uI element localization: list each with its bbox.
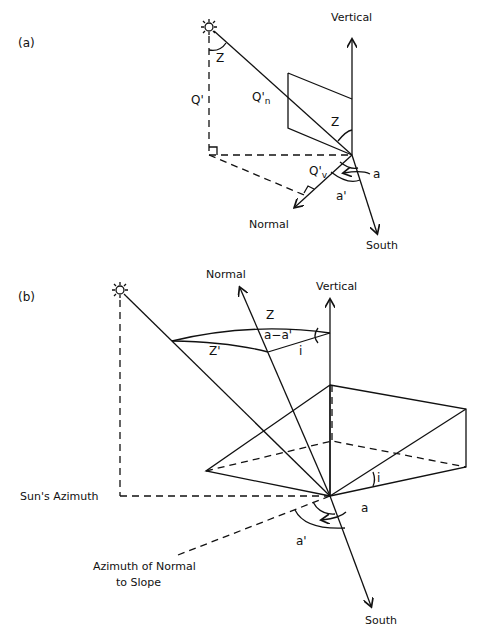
vertical-label: Vertical — [316, 281, 357, 293]
solar-geometry-diagram — [0, 0, 481, 639]
sun-icon — [112, 282, 128, 298]
suns-azimuth-label: Sun's Azimuth — [20, 491, 99, 503]
sun-icon — [201, 19, 217, 35]
q-v-label: Q'v — [309, 165, 327, 181]
azimuth-normal-label-line2: to Slope — [116, 577, 161, 589]
a-prime-label: a' — [296, 535, 307, 547]
slope-angle-label: i — [377, 472, 380, 484]
zenith-angle-label: Z — [266, 309, 274, 321]
z-prime-label: Z' — [209, 345, 221, 357]
zenith-angle-label: Z — [216, 52, 224, 64]
slope-angle-top-label: i — [299, 345, 302, 357]
a-label: a — [361, 502, 368, 514]
zenith-angle-vertical-label: Z — [331, 116, 339, 128]
a-prime-label: a' — [336, 190, 347, 202]
q-n-label: Q'n — [252, 91, 270, 107]
a-label: a — [373, 168, 380, 180]
south-label: South — [365, 615, 397, 627]
panel-b-label: (b) — [18, 291, 35, 303]
normal-label: Normal — [249, 219, 289, 231]
azimuth-normal-label-line1: Azimuth of Normal — [93, 561, 196, 573]
south-label: South — [366, 240, 398, 252]
azimuth-difference-label: a−a' — [264, 329, 292, 341]
q-prime-label: Q' — [191, 94, 204, 106]
normal-label: Normal — [206, 269, 246, 281]
panel-a-label: (a) — [18, 37, 35, 49]
vertical-label: Vertical — [331, 12, 372, 24]
panel-a-figure — [201, 19, 377, 233]
